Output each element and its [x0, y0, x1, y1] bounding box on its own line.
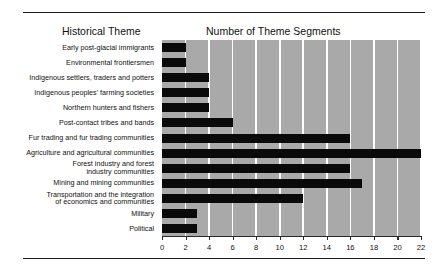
x-axis: 0246810121416182022: [162, 236, 421, 256]
bar-row: [162, 115, 421, 130]
x-axis-tick: [397, 236, 398, 240]
plot-area: [162, 40, 421, 236]
category-label: Indigenous peoples' farming societies: [0, 85, 158, 100]
column-header-number-of-theme-segments: Number of Theme Segments: [206, 25, 341, 37]
bar: [162, 103, 209, 112]
category-label: Post-contact tribes and bands: [0, 115, 158, 130]
bar: [162, 149, 421, 158]
bar: [162, 164, 350, 173]
x-axis-tick-label: 4: [207, 243, 211, 252]
bar-row: [162, 130, 421, 145]
x-axis-tick: [209, 236, 210, 240]
category-label: Military: [0, 206, 158, 221]
x-axis-tick-label: 14: [323, 243, 331, 252]
x-axis-tick: [421, 236, 422, 240]
category-label: Forest industry and forest industry comm…: [0, 160, 158, 176]
bar: [162, 118, 233, 127]
column-header-historical-theme: Historical Theme: [62, 25, 141, 37]
category-label: Mining and mining communities: [0, 176, 158, 191]
category-axis-labels: Early post-glacial immigrantsEnvironment…: [0, 40, 158, 236]
x-axis-tick: [374, 236, 375, 240]
category-label: Political: [0, 221, 158, 236]
bar: [162, 58, 186, 67]
x-axis-tick-label: 22: [417, 243, 425, 252]
bottom-divider-rule: [23, 258, 425, 259]
x-axis-tick: [162, 236, 163, 240]
x-axis-tick-label: 8: [254, 243, 258, 252]
category-label: Environmental frontiersmen: [0, 55, 158, 70]
x-axis-tick: [233, 236, 234, 240]
x-axis-tick: [303, 236, 304, 240]
category-label: Fur trading and fur trading communities: [0, 130, 158, 145]
category-label: Early post-glacial immigrants: [0, 40, 158, 55]
bar: [162, 73, 209, 82]
x-axis-tick-label: 20: [393, 243, 401, 252]
bar: [162, 134, 350, 143]
bar: [162, 209, 197, 218]
x-axis-tick: [186, 236, 187, 240]
x-axis-tick: [280, 236, 281, 240]
bar: [162, 43, 186, 52]
x-axis-tick-label: 16: [346, 243, 354, 252]
bar-row: [162, 40, 421, 55]
chart-figure: Historical Theme Number of Theme Segment…: [0, 0, 446, 273]
bar-row: [162, 146, 421, 161]
x-axis-tick-label: 18: [370, 243, 378, 252]
bar: [162, 224, 197, 233]
bar-series: [162, 40, 421, 236]
bar: [162, 194, 303, 203]
bar-row: [162, 85, 421, 100]
top-divider-rule: [23, 12, 425, 13]
x-axis-tick: [350, 236, 351, 240]
x-axis-tick-label: 10: [275, 243, 283, 252]
x-axis-tick-label: 6: [231, 243, 235, 252]
x-axis-tick: [327, 236, 328, 240]
x-axis-line: [162, 236, 421, 237]
bar-row: [162, 55, 421, 70]
bar-row: [162, 221, 421, 236]
bar-row: [162, 100, 421, 115]
bar: [162, 88, 209, 97]
bar-row: [162, 206, 421, 221]
x-axis-tick-label: 2: [183, 243, 187, 252]
x-axis-tick: [256, 236, 257, 240]
bar-row: [162, 176, 421, 191]
category-label: Indigenous settlers, traders and potters: [0, 70, 158, 85]
category-label: Agriculture and agricultural communities: [0, 145, 158, 160]
bar-row: [162, 161, 421, 176]
category-label: Transportation and the integration of ec…: [0, 191, 158, 207]
bar-row: [162, 191, 421, 206]
category-label: Northern hunters and fishers: [0, 100, 158, 115]
bar: [162, 179, 362, 188]
x-axis-tick-label: 12: [299, 243, 307, 252]
bar-row: [162, 70, 421, 85]
x-axis-tick-label: 0: [160, 243, 164, 252]
